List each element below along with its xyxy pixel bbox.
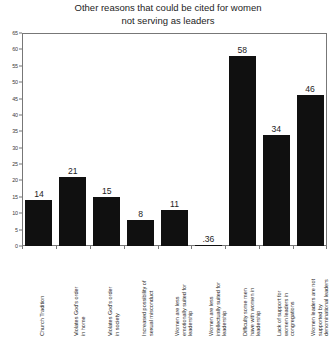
bar-value-label: 58 (237, 45, 247, 55)
x-axis-label-text: Women leaders are not supported by denom… (310, 250, 330, 336)
x-axis-tick-mark (158, 246, 159, 249)
x-axis-tick-mark (22, 246, 23, 249)
y-axis-tick-label: 20 (12, 177, 18, 183)
bar-value-label: 46 (305, 84, 315, 94)
bar-value-label: 34 (271, 124, 281, 134)
bar-chart: Other reasons that could be cited for wo… (0, 0, 333, 338)
bar-rect (229, 56, 256, 246)
bar[interactable]: 21 (59, 33, 86, 246)
bar-rect (25, 200, 52, 246)
bar[interactable]: 58 (229, 33, 256, 246)
x-axis-label: Lack of support for women leaders in con… (259, 250, 293, 338)
x-axis-tick-mark (191, 246, 192, 249)
x-axis-label: Women leaders are not supported by denom… (293, 250, 327, 338)
bar-rect (297, 95, 324, 246)
bar-rect (59, 177, 86, 246)
bar-rect (263, 135, 290, 246)
y-axis-tick-label: 40 (12, 112, 18, 118)
bars-layer: 142115811.36583446 (22, 33, 327, 246)
x-axis-tick-mark (259, 246, 260, 249)
y-axis-tick-label: 55 (12, 63, 18, 69)
x-axis-label: Women are less emotionally suited for le… (158, 250, 192, 338)
x-axis-label: Church Tradition (22, 250, 56, 338)
y-axis-tick-label: 60 (12, 46, 18, 52)
x-axis-tick-mark (293, 246, 294, 249)
x-axis-label: Violates God's order in society (90, 250, 124, 338)
x-axis-label-text: Violates God's order in home (73, 250, 86, 336)
bar[interactable]: 46 (297, 33, 324, 246)
x-axis-label-text: Increased possibility of sexual miscondu… (141, 250, 154, 336)
y-axis-tick-label: 15 (12, 194, 18, 200)
bar-rect (127, 220, 154, 246)
bar[interactable]: 8 (127, 33, 154, 246)
bar[interactable]: 15 (93, 33, 120, 246)
x-axis-label: Difficulty some men have with women in l… (225, 250, 259, 338)
y-axis-tick-label: 10 (12, 210, 18, 216)
y-axis-tick-label: 65 (12, 30, 18, 36)
x-axis-tick-mark (56, 246, 57, 249)
x-axis-label: Women are less intellectually suited for… (191, 250, 225, 338)
x-axis-tick-mark (326, 246, 327, 249)
bar[interactable]: 34 (263, 33, 290, 246)
y-axis-tick-label: 30 (12, 145, 18, 151)
bar-value-label: 15 (102, 186, 112, 196)
bar-rect (161, 210, 188, 246)
x-axis-tick-mark (90, 246, 91, 249)
bar[interactable]: .36 (195, 33, 222, 246)
y-axis-tick-label: 50 (12, 79, 18, 85)
x-axis-label: Violates God's order in home (56, 250, 90, 338)
bar-rect (93, 197, 120, 246)
bar-value-label: .36 (202, 234, 214, 244)
y-axis-tick-label: 25 (12, 161, 18, 167)
x-axis-label: Increased possibility of sexual miscondu… (124, 250, 158, 338)
bar[interactable]: 11 (161, 33, 188, 246)
bar-value-label: 14 (34, 189, 44, 199)
y-axis-tick-label: 45 (12, 96, 18, 102)
bar-value-label: 11 (170, 199, 179, 209)
y-axis-tick-label: 0 (15, 243, 18, 249)
x-axis-tick-mark (225, 246, 226, 249)
bar-value-label: 21 (68, 166, 78, 176)
bar-value-label: 8 (138, 209, 143, 219)
y-axis-tick-label: 5 (15, 227, 18, 233)
y-axis: 05101520253035404550556065 (0, 33, 22, 246)
bar[interactable]: 14 (25, 33, 52, 246)
x-axis-labels: Church TraditionViolates God's order in … (22, 250, 327, 338)
chart-title: Other reasons that could be cited for wo… (18, 2, 318, 27)
x-axis-label-text: Violates God's order in society (107, 250, 120, 336)
x-axis-tick-mark (124, 246, 125, 249)
x-axis-label-text: Church Tradition (39, 250, 46, 336)
y-axis-tick-label: 35 (12, 128, 18, 134)
